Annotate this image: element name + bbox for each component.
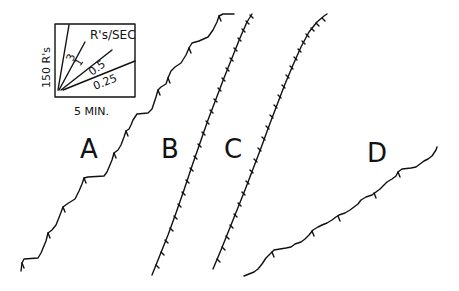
y-scale-label: 150 R's [40, 47, 53, 88]
rate-legend: R's/SEC 3 1 0.5 0.25 150 R's 5 MIN. [40, 24, 136, 118]
curve-label-c: C [224, 134, 242, 164]
x-scale-label: 5 MIN. [74, 105, 109, 118]
curve-d [244, 147, 437, 276]
curve-label-d: D [367, 138, 387, 168]
cumulative-record-figure: R's/SEC 3 1 0.5 0.25 150 R's 5 MIN. [0, 0, 459, 291]
curve-d-reinforcement-ticks [272, 172, 400, 257]
rate-label-1: 1 [72, 56, 87, 69]
rate-units-label: R's/SEC [90, 28, 136, 42]
curve-label-b: B [161, 134, 179, 164]
curve-label-a: A [80, 134, 98, 164]
